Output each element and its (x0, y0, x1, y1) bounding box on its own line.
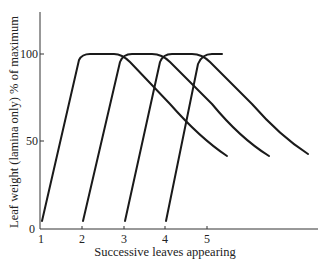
series-leaf-3 (125, 54, 308, 221)
y-tick-label-0: 0 (29, 222, 35, 236)
x-axis-title: Successive leaves appearing (94, 245, 236, 259)
y-tick-label-100: 100 (20, 47, 38, 61)
series-leaf-2 (83, 54, 269, 221)
x-tick-label-1: 1 (38, 232, 44, 246)
series-leaf-4 (166, 54, 222, 221)
y-axis-title: Leaf weight (lamina only) % of maximum (7, 16, 21, 228)
x-tick-label-4: 4 (162, 232, 168, 246)
chart: 0 50 100 1 2 3 4 5 Successive leaves app… (0, 0, 322, 261)
series-leaf-1 (42, 54, 227, 221)
x-tick-label-3: 3 (121, 232, 127, 246)
x-tick-label-2: 2 (79, 232, 85, 246)
x-tick-label-5: 5 (204, 232, 210, 246)
y-tick-label-50: 50 (26, 134, 38, 148)
